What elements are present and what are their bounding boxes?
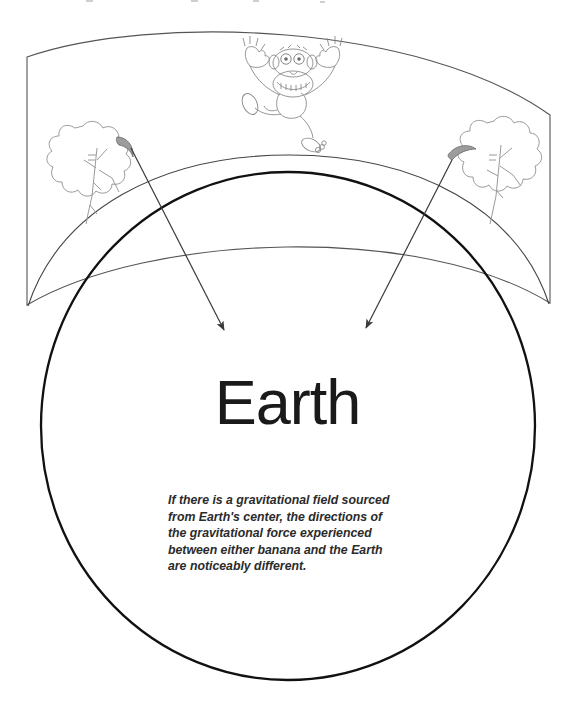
gravity-diagram-figure: Earth If there is a gravitational field … xyxy=(0,0,575,708)
earth-circle xyxy=(41,172,535,680)
monkey-figure xyxy=(239,36,342,155)
banana-left xyxy=(116,137,133,157)
curved-ground-band xyxy=(27,32,550,305)
diagram-canvas xyxy=(0,0,575,708)
banana-right xyxy=(448,146,476,160)
scan-artifacts xyxy=(86,0,325,3)
earth-inner-arc xyxy=(28,155,549,306)
gravity-arrow-left xyxy=(131,148,224,330)
gravity-arrow-right xyxy=(366,160,452,328)
figure-caption: If there is a gravitational field source… xyxy=(168,492,392,575)
tree-right xyxy=(458,116,542,224)
